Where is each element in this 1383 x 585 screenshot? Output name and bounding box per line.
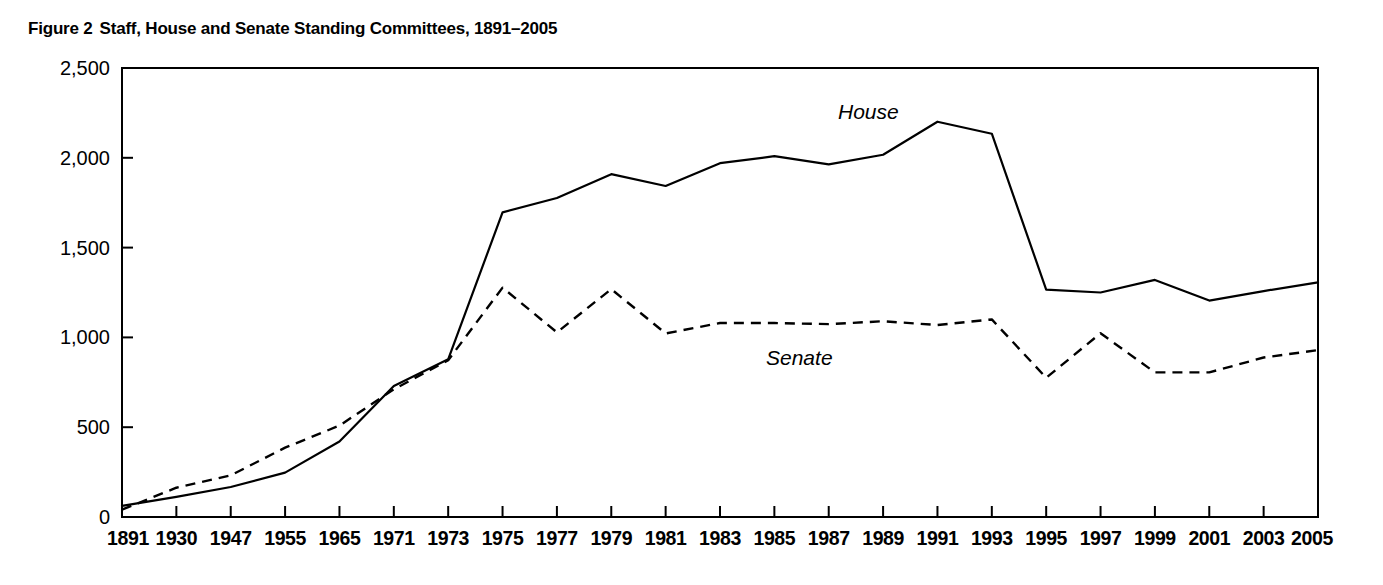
series-label-house: House bbox=[838, 100, 899, 123]
x-tick-label: 1979 bbox=[590, 527, 632, 549]
x-tick-label: 1965 bbox=[319, 527, 361, 549]
y-tick-label: 1,500 bbox=[60, 237, 110, 259]
x-tick-label: 2005 bbox=[1291, 527, 1333, 549]
x-tick-label: 1930 bbox=[155, 527, 197, 549]
x-tick-label: 1971 bbox=[373, 527, 415, 549]
x-tick-label: 1985 bbox=[753, 527, 795, 549]
x-tick-label: 1987 bbox=[808, 527, 850, 549]
y-tick-label: 2,500 bbox=[60, 57, 110, 79]
series-annotations: HouseSenate bbox=[766, 100, 899, 369]
x-tick-label: 1955 bbox=[264, 527, 306, 549]
x-tick-label: 1981 bbox=[645, 527, 687, 549]
x-tick-label: 1977 bbox=[536, 527, 578, 549]
y-tick-label: 1,000 bbox=[60, 326, 110, 348]
x-tick-label: 1995 bbox=[1025, 527, 1067, 549]
series-line-senate bbox=[122, 288, 1318, 510]
figure-container: Figure 2Staff, House and Senate Standing… bbox=[0, 0, 1383, 585]
plot-frame bbox=[122, 68, 1318, 517]
y-tick-label: 2,000 bbox=[60, 147, 110, 169]
chart-series-lines bbox=[122, 122, 1318, 510]
x-tick-label: 1991 bbox=[917, 527, 959, 549]
x-tick-label: 1973 bbox=[427, 527, 469, 549]
y-tick-label: 0 bbox=[99, 506, 110, 528]
y-axis-tick-labels: 05001,0001,5002,0002,500 bbox=[60, 57, 110, 528]
x-tick-label: 1993 bbox=[971, 527, 1013, 549]
series-label-senate: Senate bbox=[766, 346, 833, 369]
y-tick-label: 500 bbox=[77, 416, 110, 438]
x-axis-tick-labels: 1891193019471955196519711973197519771979… bbox=[107, 527, 1333, 549]
x-tick-label: 1975 bbox=[482, 527, 524, 549]
x-tick-label: 1997 bbox=[1080, 527, 1122, 549]
x-tick-label: 1891 bbox=[107, 527, 149, 549]
x-tick-label: 1999 bbox=[1134, 527, 1176, 549]
chart-axes bbox=[122, 68, 1318, 517]
x-tick-label: 1947 bbox=[210, 527, 252, 549]
x-tick-label: 2001 bbox=[1188, 527, 1230, 549]
line-chart: 05001,0001,5002,0002,500 189119301947195… bbox=[0, 0, 1383, 585]
x-tick-label: 2003 bbox=[1243, 527, 1285, 549]
x-tick-label: 1983 bbox=[699, 527, 741, 549]
series-line-house bbox=[122, 122, 1318, 506]
x-tick-label: 1989 bbox=[862, 527, 904, 549]
